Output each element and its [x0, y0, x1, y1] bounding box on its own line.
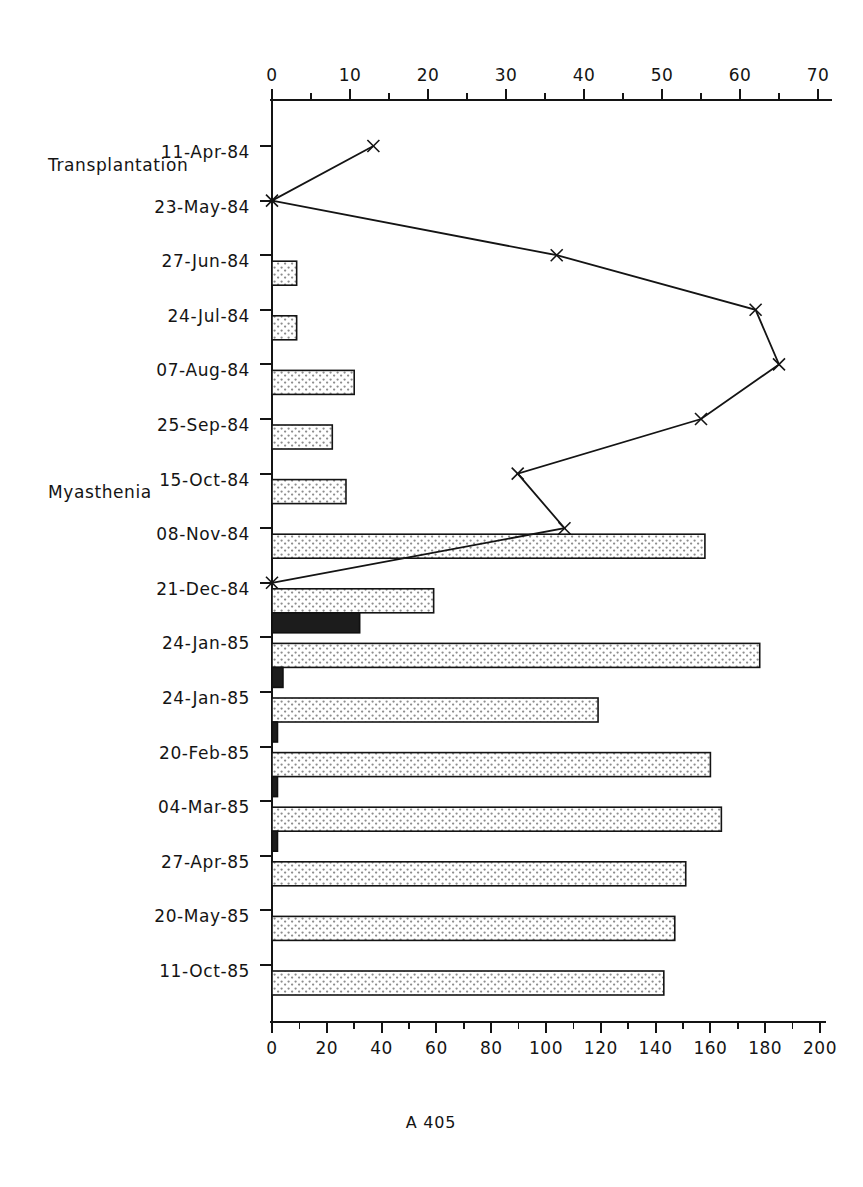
- category-label: 23-May-84: [154, 197, 250, 217]
- category-label: 11-Oct-85: [159, 961, 250, 981]
- figure-container: 010203040506070 020406080100120140160180…: [0, 0, 863, 1187]
- top-axis-tick-label: 30: [495, 65, 518, 85]
- top-axis-tick-label: 40: [573, 65, 596, 85]
- x-marker: [367, 140, 379, 152]
- category-label: 20-Feb-85: [159, 743, 250, 763]
- category-label: 04-Mar-85: [158, 797, 250, 817]
- bar-light: [272, 316, 297, 340]
- top-axis-tick-label: 10: [339, 65, 362, 85]
- bar-dark: [272, 831, 277, 851]
- category-label: 15-Oct-84: [159, 470, 250, 490]
- bar-light: [272, 643, 760, 667]
- bar-light: [272, 971, 664, 995]
- category-label: 27-Apr-85: [161, 852, 250, 872]
- bottom-axis-tick-label: 120: [584, 1038, 618, 1058]
- top-axis-tick-label: 50: [651, 65, 674, 85]
- bar-dark: [272, 777, 277, 797]
- bottom-axis-tick-label: 0: [266, 1038, 277, 1058]
- bar-dark: [272, 613, 360, 633]
- category-label: 25-Sep-84: [157, 415, 250, 435]
- category-label: 24-Jan-85: [162, 633, 250, 653]
- top-axis-tick-label: 70: [807, 65, 830, 85]
- figure-caption: A 405: [406, 1113, 457, 1132]
- category-label: 08-Nov-84: [156, 524, 250, 544]
- line-series-path: [272, 146, 779, 583]
- bottom-axis-tick-label: 140: [639, 1038, 673, 1058]
- bar-light: [272, 534, 705, 558]
- bars-layer: [272, 261, 760, 995]
- bar-light: [272, 807, 721, 831]
- category-label: 24-Jan-85: [162, 688, 250, 708]
- bar-light: [272, 425, 332, 449]
- top-axis-tick-label: 20: [417, 65, 440, 85]
- top-axis-tick-label: 0: [266, 65, 277, 85]
- x-marker: [750, 304, 762, 316]
- bar-light: [272, 698, 598, 722]
- x-marker: [512, 468, 524, 480]
- annotation-label: Transplantation: [47, 155, 188, 175]
- bottom-axis-tick-label: 180: [748, 1038, 782, 1058]
- category-label: 27-Jun-84: [162, 251, 250, 271]
- category-label: 24-Jul-84: [168, 306, 250, 326]
- x-marker: [773, 358, 785, 370]
- bottom-axis-tick-label: 20: [315, 1038, 338, 1058]
- bar-light: [272, 480, 346, 504]
- bar-light: [272, 916, 675, 940]
- bar-dark: [272, 667, 283, 687]
- top-axis-tick-label: 60: [729, 65, 752, 85]
- bar-light: [272, 753, 710, 777]
- bar-light: [272, 862, 686, 886]
- chart-canvas: 010203040506070 020406080100120140160180…: [0, 0, 863, 1187]
- bar-light: [272, 370, 354, 394]
- bar-light: [272, 589, 434, 613]
- bottom-axis-tick-label: 200: [803, 1038, 837, 1058]
- annotation-label: Myasthenia: [48, 482, 152, 502]
- bottom-axis-tick-label: 160: [693, 1038, 727, 1058]
- category-axis: 11-Apr-8423-May-8427-Jun-8424-Jul-8407-A…: [154, 100, 272, 1022]
- bottom-axis-tick-label: 60: [425, 1038, 448, 1058]
- bottom-axis-tick-label: 80: [480, 1038, 503, 1058]
- bottom-axis-tick-label: 40: [370, 1038, 393, 1058]
- bottom-axis-tick-label: 100: [529, 1038, 563, 1058]
- x-marker: [695, 413, 707, 425]
- category-label: 20-May-85: [154, 906, 250, 926]
- bar-light: [272, 261, 297, 285]
- top-axis: 010203040506070: [266, 65, 832, 100]
- line-series-layer: [266, 140, 785, 589]
- category-label: 07-Aug-84: [156, 360, 250, 380]
- bar-dark: [272, 722, 277, 742]
- category-label: 21-Dec-84: [156, 579, 250, 599]
- bottom-axis: 020406080100120140160180200: [266, 1022, 837, 1058]
